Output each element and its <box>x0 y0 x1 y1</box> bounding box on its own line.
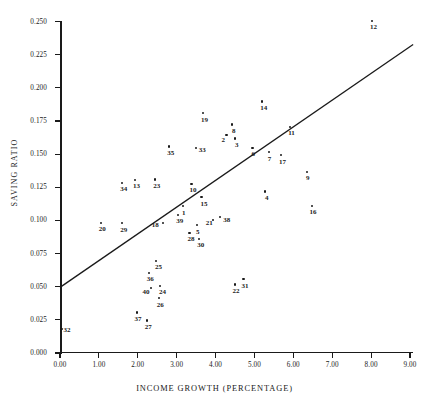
y-tick-label: 0.100 <box>0 216 47 224</box>
data-point <box>280 154 282 156</box>
x-tick-mark <box>215 353 216 358</box>
data-point <box>60 328 62 330</box>
data-point-label: 37 <box>135 316 142 323</box>
data-point-label: 33 <box>199 147 206 154</box>
data-point-label: 32 <box>64 327 71 334</box>
x-tick-mark <box>409 353 410 358</box>
data-point-label: 11 <box>288 130 295 137</box>
y-tick-mark <box>55 120 60 121</box>
y-tick-label: 0.250 <box>0 18 47 26</box>
data-point <box>190 183 192 185</box>
y-tick-mark <box>55 220 60 221</box>
y-tick-label: 0.125 <box>0 183 47 191</box>
data-point-label: 34 <box>120 186 127 193</box>
data-point <box>268 151 270 153</box>
y-tick-label: 0.200 <box>0 84 47 92</box>
data-point-label: 17 <box>279 159 286 166</box>
data-point-label: 5 <box>196 229 200 236</box>
data-point-label: 39 <box>176 218 183 225</box>
data-point-label: 10 <box>189 187 196 194</box>
data-point-label: 6 <box>252 151 256 158</box>
data-point <box>162 222 164 224</box>
data-point-label: 1 <box>182 210 186 217</box>
x-tick-mark <box>293 353 294 358</box>
data-point-label: 23 <box>153 183 160 190</box>
x-tick-mark <box>137 353 138 358</box>
data-point <box>311 205 313 207</box>
data-point <box>158 297 160 299</box>
x-tick-mark <box>176 353 177 358</box>
data-point-label: 36 <box>147 276 154 283</box>
y-tick-mark <box>55 21 60 22</box>
data-point-label: 31 <box>242 283 249 290</box>
data-point <box>196 224 198 226</box>
data-point <box>198 238 200 240</box>
data-point <box>155 260 157 262</box>
data-point <box>231 123 233 125</box>
data-point <box>225 134 227 136</box>
x-tick-mark <box>254 353 255 358</box>
y-tick-mark <box>55 187 60 188</box>
data-point <box>159 285 161 287</box>
data-point-label: 20 <box>99 226 106 233</box>
data-point <box>121 182 123 184</box>
y-axis-title: SAVING RATIO <box>10 135 19 211</box>
x-tick-mark <box>59 353 60 358</box>
x-tick-label: 0.00 <box>40 361 80 369</box>
data-point-label: 9 <box>306 175 310 182</box>
data-point <box>264 190 266 192</box>
y-tick-mark <box>55 286 60 287</box>
regression-line <box>0 0 429 408</box>
y-tick-mark <box>55 319 60 320</box>
data-point-label: 14 <box>260 105 267 112</box>
data-point-label: 13 <box>133 183 140 190</box>
data-point-label: 22 <box>233 288 240 295</box>
data-point <box>100 222 102 224</box>
data-point <box>150 287 152 289</box>
data-point <box>289 126 291 128</box>
data-point <box>234 283 236 285</box>
data-point <box>134 179 136 181</box>
y-axis-line <box>60 21 62 354</box>
data-point <box>242 278 244 280</box>
x-tick-label: 6.00 <box>273 361 313 369</box>
y-tick-label: 0.075 <box>0 250 47 258</box>
x-tick-label: 5.00 <box>234 361 274 369</box>
data-point-label: 12 <box>370 24 377 31</box>
data-point <box>182 205 184 207</box>
x-tick-label: 2.00 <box>118 361 158 369</box>
y-tick-mark <box>55 253 60 254</box>
y-tick-mark <box>55 87 60 88</box>
data-point-label: 3 <box>235 142 239 149</box>
data-point-label: 25 <box>155 264 162 271</box>
data-point-label: 27 <box>145 324 152 331</box>
x-tick-label: 1.00 <box>79 361 119 369</box>
data-point <box>148 272 150 274</box>
y-tick-mark <box>55 54 60 55</box>
data-point <box>261 100 263 102</box>
data-point <box>219 216 221 218</box>
data-point-label: 38 <box>223 217 230 224</box>
y-tick-label: 0.025 <box>0 316 47 324</box>
data-point <box>188 232 190 234</box>
data-point-label: 18 <box>152 222 159 229</box>
data-point <box>136 311 138 313</box>
x-tick-label: 8.00 <box>351 361 391 369</box>
data-point-label: 7 <box>268 156 272 163</box>
data-point-label: 35 <box>167 150 174 157</box>
data-point <box>234 137 236 139</box>
y-tick-label: 0.050 <box>0 283 47 291</box>
data-point-label: 2 <box>221 137 225 144</box>
data-point-label: 4 <box>265 195 269 202</box>
x-tick-label: 4.00 <box>196 361 236 369</box>
x-tick-mark <box>332 353 333 358</box>
x-tick-mark <box>371 353 372 358</box>
data-point-label: 15 <box>201 201 208 208</box>
y-tick-label: 0.225 <box>0 51 47 59</box>
y-tick-label: 0.175 <box>0 117 47 125</box>
data-point <box>168 145 170 147</box>
scatter-plot: SAVING RATIO INCOME GROWTH (PERCENTAGE) … <box>0 0 429 408</box>
data-point-label: 16 <box>310 209 317 216</box>
data-point-label: 28 <box>188 236 195 243</box>
data-point-label: 30 <box>197 242 204 249</box>
